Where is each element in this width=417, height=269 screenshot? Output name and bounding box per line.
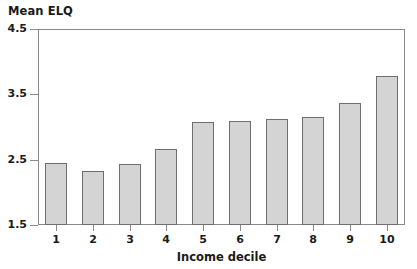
y-axis-tick xyxy=(30,160,38,161)
y-axis-tick-label: 1.5 xyxy=(0,219,27,230)
y-axis-tick xyxy=(30,94,38,95)
x-axis-tick-label: 4 xyxy=(151,234,181,246)
y-axis-tick xyxy=(30,29,38,30)
x-axis-tick xyxy=(130,225,131,231)
x-axis-title: Income decile xyxy=(38,250,405,264)
x-axis-tick xyxy=(350,225,351,231)
x-axis-tick-label: 5 xyxy=(188,234,218,246)
x-axis-tick xyxy=(313,225,314,231)
x-axis-tick xyxy=(203,225,204,231)
bar xyxy=(302,117,324,225)
x-axis-tick-label: 3 xyxy=(115,234,145,246)
bar xyxy=(192,122,214,225)
x-axis-tick-label: 6 xyxy=(225,234,255,246)
bar xyxy=(82,171,104,225)
y-axis-tick-label: 3.5 xyxy=(0,88,27,99)
bar xyxy=(266,119,288,225)
chart-title: Mean ELQ xyxy=(8,4,73,18)
x-axis-tick-label: 7 xyxy=(262,234,292,246)
bar xyxy=(229,121,251,225)
x-axis-tick-label: 10 xyxy=(372,234,402,246)
y-axis-tick-label: 2.5 xyxy=(0,154,27,165)
x-axis-tick xyxy=(166,225,167,231)
x-axis-tick xyxy=(387,225,388,231)
bar xyxy=(376,76,398,225)
x-axis-tick xyxy=(240,225,241,231)
y-axis-tick xyxy=(30,225,38,226)
bar xyxy=(339,103,361,225)
x-axis-tick-label: 2 xyxy=(78,234,108,246)
x-axis-tick xyxy=(277,225,278,231)
bar xyxy=(155,149,177,225)
bar xyxy=(45,163,67,225)
x-axis-tick-label: 8 xyxy=(298,234,328,246)
x-axis-tick xyxy=(56,225,57,231)
x-axis-tick xyxy=(93,225,94,231)
x-axis-tick-label: 1 xyxy=(41,234,71,246)
bar-chart-figure: Mean ELQ 1.52.53.54.5 12345678910 Income… xyxy=(0,0,417,269)
y-axis-tick-label: 4.5 xyxy=(0,23,27,34)
x-axis-tick-label: 9 xyxy=(335,234,365,246)
bar xyxy=(119,164,141,225)
